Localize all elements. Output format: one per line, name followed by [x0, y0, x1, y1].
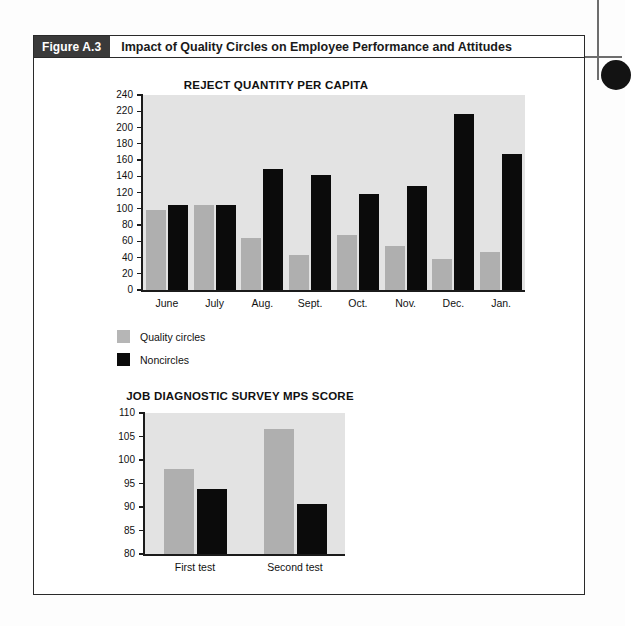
x-axis-tick-label: June: [143, 298, 191, 309]
chart-1-title: REJECT QUANTITY PER CAPITA: [0, 79, 552, 91]
y-axis-tick-label: 100: [93, 204, 133, 214]
legend-item-quality-circles: Quality circles: [117, 327, 205, 346]
y-axis-tick-label: 110: [95, 408, 135, 418]
x-axis-tick-label: Sept.: [286, 298, 334, 309]
bar: [385, 246, 405, 290]
y-axis-tick-label: 60: [93, 236, 133, 246]
bar: [407, 186, 427, 290]
chart-1-legend: Quality circles Noncircles: [117, 327, 205, 373]
y-axis-tick-label: 120: [93, 188, 133, 198]
y-axis-tick-label: 160: [93, 155, 133, 165]
y-axis-tick-label: 105: [95, 432, 135, 442]
bar: [289, 255, 309, 290]
x-axis-line: [141, 290, 525, 292]
bar: [311, 175, 331, 290]
y-axis-tick-label: 90: [95, 502, 135, 512]
y-axis-tick-label: 240: [93, 90, 133, 100]
bar: [480, 252, 500, 290]
figure-caption-bar: Figure A.3 Impact of Quality Circles on …: [33, 35, 585, 58]
x-axis-tick-label: Oct.: [334, 298, 382, 309]
bar: [359, 194, 379, 290]
x-axis-line: [143, 554, 345, 556]
figure-title-label: Impact of Quality Circles on Employee Pe…: [110, 36, 512, 57]
bar: [263, 169, 283, 290]
bar: [264, 429, 294, 554]
bar: [454, 114, 474, 290]
bar: [241, 238, 261, 290]
y-axis-tick-label: 220: [93, 106, 133, 116]
margin-rule-vertical: [597, 0, 599, 80]
legend-swatch-noncircles: [117, 353, 130, 366]
bar: [432, 259, 452, 290]
y-axis-tick-label: 80: [95, 549, 135, 559]
y-axis-line: [143, 413, 145, 556]
y-axis-tick-label: 80: [93, 220, 133, 230]
legend-item-noncircles: Noncircles: [117, 350, 205, 369]
y-axis-tick-label: 100: [95, 455, 135, 465]
legend-swatch-quality-circles: [117, 330, 130, 343]
y-axis-tick-label: 95: [95, 479, 135, 489]
bar: [168, 205, 188, 290]
y-axis-tick-label: 40: [93, 253, 133, 263]
bar: [194, 205, 214, 290]
y-axis-tick-label: 85: [95, 526, 135, 536]
bar: [164, 469, 194, 554]
bar: [197, 489, 227, 554]
x-axis-tick-label: Aug.: [239, 298, 287, 309]
x-axis-tick-label: First test: [145, 562, 245, 573]
bar: [216, 205, 236, 290]
legend-label-quality-circles: Quality circles: [140, 331, 205, 343]
chart-2-title: JOB DIAGNOSTIC SURVEY MPS SCORE: [115, 390, 365, 402]
legend-label-noncircles: Noncircles: [140, 354, 189, 366]
x-axis-tick-label: Jan.: [477, 298, 525, 309]
y-axis-tick-label: 0: [93, 285, 133, 295]
x-axis-tick-label: July: [191, 298, 239, 309]
y-axis-tick-label: 140: [93, 171, 133, 181]
y-axis-tick-label: 180: [93, 139, 133, 149]
y-axis-tick-label: 200: [93, 123, 133, 133]
x-axis-tick-label: Nov.: [382, 298, 430, 309]
bar: [502, 154, 522, 290]
x-axis-tick-label: Dec.: [430, 298, 478, 309]
y-axis-line: [141, 95, 143, 292]
page-edge-artifact: [601, 60, 631, 90]
bar: [146, 210, 166, 290]
bar: [297, 504, 327, 554]
x-axis-tick-label: Second test: [245, 562, 345, 573]
bar: [337, 235, 357, 290]
figure-number-label: Figure A.3: [34, 36, 110, 57]
y-axis-tick-label: 20: [93, 269, 133, 279]
